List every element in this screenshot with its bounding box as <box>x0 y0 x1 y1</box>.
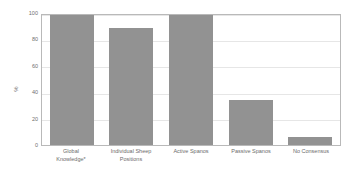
y-tick-label: 100 <box>18 11 38 17</box>
x-tick-label-line: Passive Spanos <box>222 148 280 156</box>
plot-area <box>41 14 341 146</box>
x-tick-label-line: No Consensus <box>282 148 340 156</box>
bar <box>229 100 273 146</box>
bar <box>288 137 332 145</box>
x-tick-label-line: Knowledge* <box>42 156 100 164</box>
x-tick-label-line: Individual Sheep <box>102 148 160 156</box>
bar-slot <box>280 15 340 145</box>
bar-series <box>42 15 340 145</box>
x-tick-label-line: Active Spanos <box>162 148 220 156</box>
x-tick-label-line: Global <box>42 148 100 156</box>
y-tick-label: 60 <box>18 64 38 70</box>
bar <box>50 15 94 145</box>
y-axis-tick-labels: 0 20 40 60 80 100 <box>18 14 38 146</box>
bar-slot <box>42 15 102 145</box>
bar <box>169 15 213 145</box>
x-tick-label-line: Positions <box>102 156 160 164</box>
x-tick-label: Passive Spanos <box>221 148 281 163</box>
y-tick-label: 40 <box>18 90 38 96</box>
x-tick-label: Individual Sheep Positions <box>101 148 161 163</box>
y-tick-label: 0 <box>18 143 38 149</box>
bar <box>109 28 153 145</box>
bar-slot <box>102 15 162 145</box>
bar-chart-figure: % 0 20 40 60 80 100 <box>0 0 357 180</box>
x-axis-tick-labels: Global Knowledge* Individual Sheep Posit… <box>41 148 341 163</box>
x-tick-label: Global Knowledge* <box>41 148 101 163</box>
bar-slot <box>161 15 221 145</box>
y-tick-label: 20 <box>18 117 38 123</box>
x-tick-label: No Consensus <box>281 148 341 163</box>
y-tick-label: 80 <box>18 38 38 44</box>
x-tick-label: Active Spanos <box>161 148 221 163</box>
bar-slot <box>221 15 281 145</box>
